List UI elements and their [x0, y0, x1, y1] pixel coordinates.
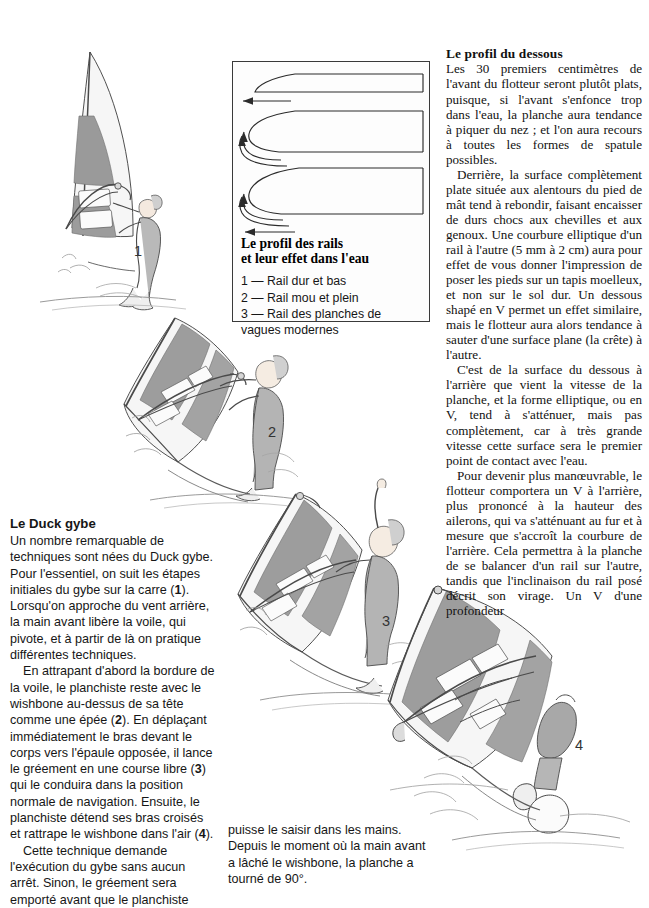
figure-4-rig [388, 586, 630, 850]
right-paragraph-3: C'est de la surface du dessous à l'arriè… [446, 362, 642, 467]
rail-legend-item-3: 3 — Rail des planches de [241, 306, 425, 322]
right-text-column: Le profil du dessous Les 30 premiers cen… [446, 46, 642, 618]
left-paragraph-1: Un nombre remarquable de techniques sont… [10, 533, 215, 663]
rail-caption-line-2: et leur effet dans l'eau [241, 251, 425, 266]
bottom-text-column: puisse le saisir dans les mains. Depuis … [228, 822, 428, 887]
rail-legend-item-3b: vagues modernes [241, 322, 425, 338]
rail-legend-item-1: 1 — Rail dur et bas [241, 273, 425, 289]
step-marker-4: 4 [199, 827, 206, 841]
figure-1-rig [40, 52, 186, 310]
figure-3-rig [238, 479, 448, 710]
rail-profile-figure: Le profil des rails et leur effet dans l… [232, 61, 430, 322]
step-marker-3: 3 [195, 762, 202, 776]
left-paragraph-3: Cette technique demande l'exécution du g… [10, 843, 215, 908]
left-column-heading: Le Duck gybe [10, 516, 215, 532]
rail-profile-caption: Le profil des rails et leur effet dans l… [241, 236, 425, 338]
figure-label-4: 4 [575, 737, 583, 753]
right-column-heading: Le profil du dessous [446, 46, 642, 61]
rail-caption-line-1: Le profil des rails [241, 236, 425, 251]
rail-legend-item-2: 2 — Rail mou et plein [241, 290, 425, 306]
right-paragraph-2: Derrière, la surface complètement plate … [446, 167, 642, 363]
step-marker-1: 1 [175, 583, 182, 597]
figure-label-2: 2 [268, 424, 276, 440]
figure-label-1: 1 [134, 243, 142, 259]
rail-legend: 1 — Rail dur et bas 2 — Rail mou et plei… [241, 273, 425, 337]
right-paragraph-4: Pour devenir plus manœuvrable, le flotte… [446, 468, 642, 618]
left-p2-part-d: ). [206, 827, 214, 841]
right-paragraph-1: Les 30 premiers centimètres de l'avant d… [446, 61, 642, 166]
left-text-column: Le Duck gybe Un nombre remarquable de te… [10, 516, 215, 908]
figure-2-rig [124, 318, 306, 508]
bottom-paragraph: puisse le saisir dans les mains. Depuis … [228, 822, 428, 887]
step-marker-2: 2 [115, 713, 122, 727]
figure-label-3: 3 [382, 613, 390, 629]
left-paragraph-2: En attrapant d'abord la bordure de la vo… [10, 663, 215, 842]
rail-profile-diagram [233, 62, 431, 238]
